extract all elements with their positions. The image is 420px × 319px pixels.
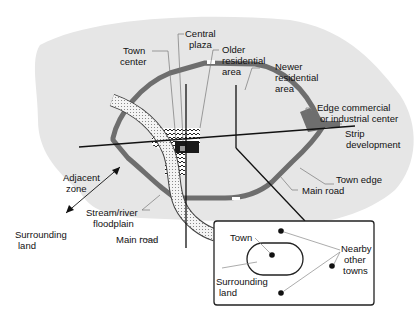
inset-nearby-town-dot — [278, 228, 284, 234]
label-surrounding-land: Surrounding land — [15, 229, 69, 251]
inset-regional-context: Town Surrounding land Nearby other towns — [214, 221, 374, 305]
inset-nearby-town-dot — [329, 263, 335, 269]
central-plaza — [180, 146, 185, 151]
label-stream-floodplain: Stream/river floodplain — [86, 207, 140, 229]
label-edge-commercial: Edge commercial or industrial center — [317, 102, 398, 124]
label-main-road-bottom: Main road — [116, 234, 158, 245]
inset-nearby-town-dot — [278, 290, 284, 296]
inset-town-dot — [269, 252, 275, 258]
inset-label-town: Town — [230, 232, 252, 243]
edge-notch — [232, 197, 240, 200]
town-structure-diagram: Town center Central plaza Older resident… — [0, 0, 420, 319]
town-center-block — [175, 141, 199, 153]
label-town-edge: Town edge — [336, 174, 382, 185]
label-main-road-right: Main road — [302, 185, 344, 196]
label-town-center: Town center — [120, 45, 148, 67]
